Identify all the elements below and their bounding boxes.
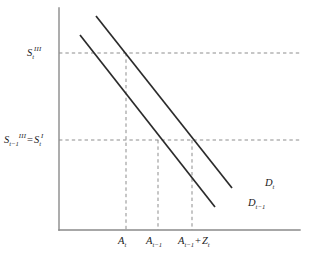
curve-label-demand-t-sub: t — [273, 183, 275, 190]
x-tick-label-a-t-minus-1: At−1 — [146, 236, 162, 249]
demand-curve-t — [96, 16, 232, 188]
curve-label-demand-t-minus-1: Dt−1 — [248, 198, 265, 211]
diagram-canvas — [0, 0, 312, 263]
y-tick-label-s-t-III-sup: III — [34, 45, 41, 52]
x-tick-label-3-operator: + — [194, 235, 202, 246]
curve-label-demand-t: Dt — [265, 178, 274, 191]
y-tick-label-lower-sup-2: I — [41, 132, 43, 139]
y-tick-label-s-t-III-sub: t — [32, 53, 34, 60]
x-tick-label-a-t-minus-1-plus-z-t: At−1+Zt — [178, 236, 210, 249]
y-tick-label-s-t-minus-1-III-equals-s-t-I: St−1III=StI — [4, 133, 43, 147]
y-tick-label-lower-sub-1: t−1 — [9, 140, 19, 147]
curve-label-demand-t-minus-1-base: D — [248, 197, 256, 208]
y-tick-label-lower-sub-2: t — [39, 140, 41, 147]
x-tick-label-a-t-sub: t — [124, 241, 126, 248]
x-tick-label-3-sub-2: t — [208, 241, 210, 248]
y-tick-label-lower-sup-1: III — [19, 132, 26, 139]
y-tick-label-lower-operator: = — [26, 134, 34, 145]
curve-label-demand-t-base: D — [265, 177, 273, 188]
curve-label-demand-t-minus-1-sub: t−1 — [256, 203, 266, 210]
x-tick-label-a-t: At — [118, 236, 126, 249]
demand-curve-t-minus-1 — [80, 35, 215, 207]
x-tick-label-3-sub-1: t−1 — [184, 241, 194, 248]
y-tick-label-s-t-III: StIII — [27, 46, 41, 60]
x-tick-label-a-t-minus-1-sub: t−1 — [152, 241, 162, 248]
supply-demand-diagram: StIII St−1III=StI At At−1 At−1+Zt Dt Dt−… — [0, 0, 312, 263]
